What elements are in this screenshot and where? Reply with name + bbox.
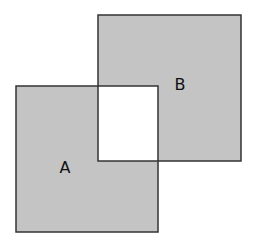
venn-squares-diagram: A B	[0, 0, 261, 245]
label-a: A	[60, 158, 71, 177]
intersection-region	[98, 86, 158, 161]
label-b: B	[175, 75, 186, 94]
